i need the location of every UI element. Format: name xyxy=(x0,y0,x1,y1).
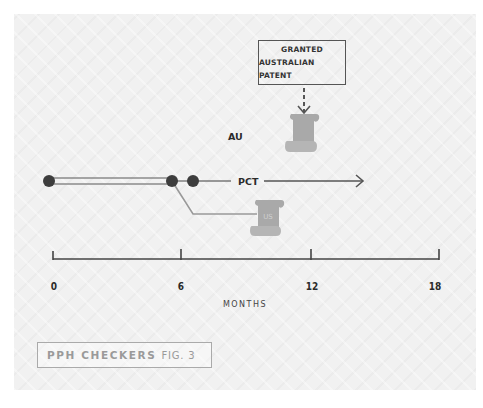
tick-label-6: 6 xyxy=(178,281,184,292)
us-patent-scroll-icon: US xyxy=(250,200,284,236)
pct-label: PCT xyxy=(238,176,259,187)
filing-dot-6 xyxy=(166,175,178,187)
au-label: AU xyxy=(228,131,243,142)
caption-fig-number: FIG. 3 xyxy=(161,350,195,361)
filing-dot-pct xyxy=(187,175,199,187)
dashed-arrow xyxy=(298,88,310,113)
tick-label-18: 18 xyxy=(429,281,442,292)
granted-patent-box: GRANTED AUSTRALIAN PATENT xyxy=(258,40,346,85)
granted-box-line2: AUSTRALIAN PATENT xyxy=(259,56,345,82)
us-scroll-label: US xyxy=(263,213,273,221)
priority-period-line xyxy=(49,178,172,184)
au-patent-scroll-icon xyxy=(285,114,319,152)
granted-box-line1: GRANTED xyxy=(281,43,323,56)
figure-caption: PPH CHECKERS FIG. 3 xyxy=(37,342,212,368)
filing-dot-0 xyxy=(43,175,55,187)
caption-brand: PPH CHECKERS xyxy=(47,349,156,361)
tick-label-0: 0 xyxy=(51,281,57,292)
months-axis xyxy=(53,249,439,260)
pct-arrow xyxy=(264,175,363,187)
tick-label-12: 12 xyxy=(306,281,319,292)
axis-title: MONTHS xyxy=(223,300,267,309)
